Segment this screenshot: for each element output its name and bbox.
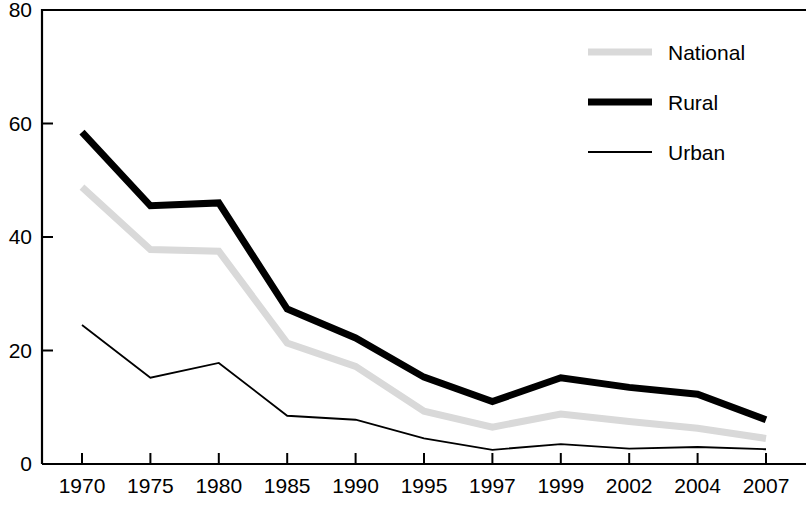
x-tick-label-2007: 2007 (743, 474, 790, 497)
series-line-rural (82, 132, 766, 420)
line-chart: 020406080 197019751980198519901995199719… (0, 0, 806, 505)
y-tick-label-20: 20 (9, 339, 32, 362)
y-tick-label-80: 80 (9, 0, 32, 21)
y-tick-label-40: 40 (9, 225, 32, 248)
x-tick-label-1970: 1970 (59, 474, 106, 497)
legend-item-national[interactable]: National (588, 41, 745, 64)
y-tick-label-60: 60 (9, 112, 32, 135)
legend-item-urban[interactable]: Urban (588, 141, 725, 164)
legend-label-rural: Rural (668, 91, 718, 114)
y-axis-tick-labels: 020406080 (9, 0, 32, 475)
x-tick-label-1980: 1980 (195, 474, 242, 497)
x-axis-tick-labels: 1970197519801985199019951997199920022004… (59, 474, 790, 497)
x-tick-label-2002: 2002 (606, 474, 653, 497)
x-tick-label-1999: 1999 (537, 474, 584, 497)
y-axis-ticks (42, 124, 53, 351)
legend-label-national: National (668, 41, 745, 64)
chart-legend: NationalRuralUrban (588, 41, 745, 164)
x-tick-label-1995: 1995 (401, 474, 448, 497)
data-series-group (82, 132, 766, 450)
y-tick-label-0: 0 (20, 452, 32, 475)
legend-label-urban: Urban (668, 141, 725, 164)
x-tick-label-1990: 1990 (332, 474, 379, 497)
x-tick-label-1985: 1985 (264, 474, 311, 497)
x-tick-label-1997: 1997 (469, 474, 516, 497)
x-tick-label-1975: 1975 (127, 474, 174, 497)
x-axis-ticks (82, 453, 766, 464)
legend-item-rural[interactable]: Rural (588, 91, 718, 114)
chart-canvas: 020406080 197019751980198519901995199719… (0, 0, 806, 505)
x-tick-label-2004: 2004 (674, 474, 721, 497)
series-line-national (82, 187, 766, 438)
